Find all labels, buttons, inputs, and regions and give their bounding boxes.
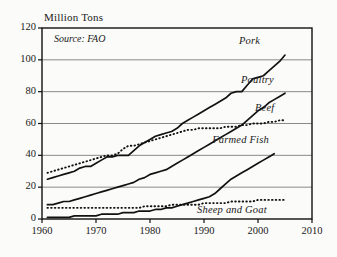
y-axis-tick-label: 80 [2, 85, 36, 96]
y-axis-tick-label: 60 [2, 117, 36, 128]
series-label-farmed-fish: Farmed Fish [212, 134, 269, 145]
x-axis-tick-label: 1990 [184, 225, 224, 236]
y-axis-tick-label: 120 [2, 21, 36, 32]
chart-container: Million Tons Source: FAO 020406080100120… [0, 0, 337, 257]
chart-plot-area [0, 0, 337, 257]
data-line-poultry [47, 93, 285, 204]
series-label-beef: Beef [255, 102, 274, 113]
y-axis-tick-label: 100 [2, 53, 36, 64]
tick-mark-group [38, 28, 312, 223]
series-label-poultry: Poultry [241, 74, 274, 85]
y-axis-tick-label: 20 [2, 180, 36, 191]
data-line-beef [47, 120, 285, 173]
y-axis-tick-label: 40 [2, 148, 36, 159]
series-label-sheep-and-goat: Sheep and Goat [197, 204, 267, 215]
y-axis-tick-label: 0 [2, 212, 36, 223]
x-axis-tick-label: 1970 [76, 225, 116, 236]
x-axis-tick-label: 1980 [130, 225, 170, 236]
x-axis-tick-label: 1960 [22, 225, 62, 236]
x-axis-tick-label: 2010 [292, 225, 332, 236]
x-axis-tick-label: 2000 [238, 225, 278, 236]
series-label-pork: Pork [239, 35, 260, 46]
